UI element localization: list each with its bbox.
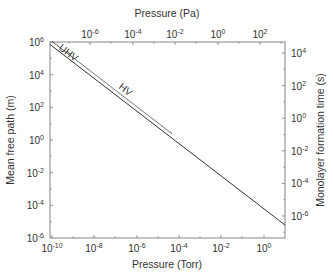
svg-text:10-2: 10-2 <box>27 167 44 179</box>
svg-text:102: 102 <box>291 80 306 92</box>
svg-text:10-2: 10-2 <box>166 28 183 40</box>
bottom-axis-title: Pressure (Torr) <box>132 258 202 270</box>
top-tick-labels: 10-6 10-4 10-2 100 102 <box>81 28 267 40</box>
svg-text:100: 100 <box>210 28 225 40</box>
bottom-tick-labels: 10-10 10-8 10-6 10-4 10-2 100 <box>41 242 271 254</box>
right-tick-labels: 104 102 100 10-2 10-4 10-6 <box>291 47 308 222</box>
bottom-ticks <box>52 235 264 238</box>
left-ticks <box>50 42 53 222</box>
top-axis-title: Pressure (Pa) <box>135 7 200 19</box>
hv-label: HV <box>117 81 135 98</box>
hv-band-end-mark <box>170 132 172 135</box>
svg-text:10-4: 10-4 <box>27 199 44 211</box>
mean-free-path-line <box>50 45 285 226</box>
svg-text:10-4: 10-4 <box>170 242 187 254</box>
svg-text:10-10: 10-10 <box>41 242 62 254</box>
svg-text:104: 104 <box>29 69 44 81</box>
svg-text:10-8: 10-8 <box>85 242 102 254</box>
svg-text:104: 104 <box>291 47 306 59</box>
chart: UHV HV 10-10 10-8 10-6 10-4 10-2 100 10-… <box>0 0 333 276</box>
svg-text:102: 102 <box>252 28 267 40</box>
right-axis-title: Monolayer formation time (s) <box>314 73 326 207</box>
svg-text:10-2: 10-2 <box>291 145 308 157</box>
left-tick-labels: 106 104 102 100 10-2 10-4 10-6 <box>27 36 44 244</box>
svg-text:10-4: 10-4 <box>124 28 141 40</box>
svg-text:100: 100 <box>291 112 306 124</box>
right-ticks <box>282 53 285 232</box>
svg-text:102: 102 <box>29 101 44 113</box>
left-axis-title: Mean free path (m) <box>4 95 16 184</box>
svg-text:10-2: 10-2 <box>212 242 229 254</box>
hv-band <box>72 57 170 132</box>
svg-text:100: 100 <box>29 134 44 146</box>
svg-text:10-6: 10-6 <box>81 28 98 40</box>
svg-text:10-6: 10-6 <box>291 210 308 222</box>
svg-text:106: 106 <box>29 36 44 48</box>
top-ticks <box>69 42 281 45</box>
svg-text:10-4: 10-4 <box>291 177 308 189</box>
svg-text:10-6: 10-6 <box>128 242 145 254</box>
svg-text:100: 100 <box>256 242 271 254</box>
